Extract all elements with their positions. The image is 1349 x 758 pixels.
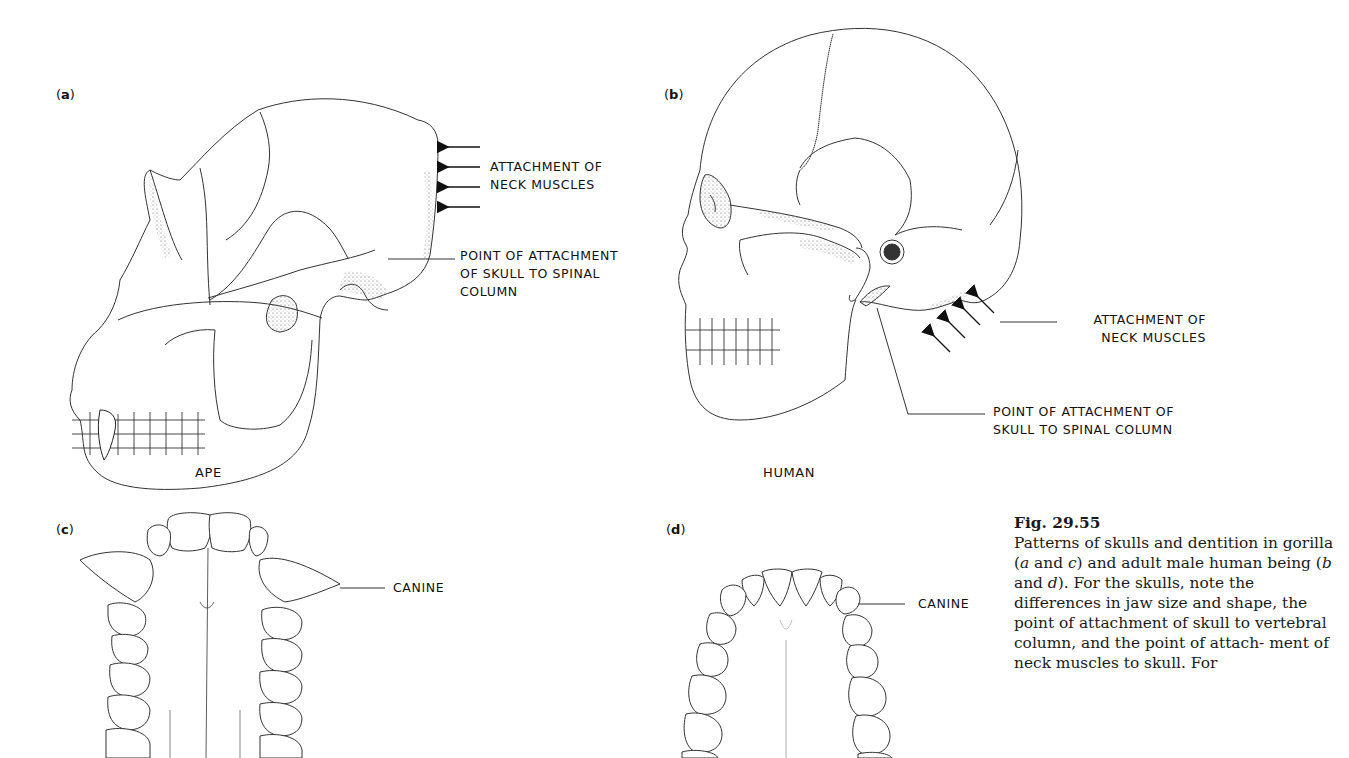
human-canine-label: CANINE xyxy=(918,595,969,613)
caption-text: ) and adult male human being ( xyxy=(1077,554,1322,572)
arrow-icon xyxy=(977,296,994,313)
caption-text: and xyxy=(1014,574,1048,592)
caption-ref-c: c xyxy=(1068,554,1077,572)
figure-number: Fig. 29.55 xyxy=(1014,513,1344,533)
ape-canine-label: CANINE xyxy=(393,579,444,597)
human-dentition-drawing xyxy=(682,569,892,758)
arrow-icon xyxy=(948,321,965,338)
arrow-icon xyxy=(963,308,980,325)
human-spinal-leader-line xyxy=(877,308,985,414)
human-species-label: HUMAN xyxy=(763,465,815,480)
human-skull-drawing xyxy=(679,28,1022,420)
ape-dentition-drawing xyxy=(80,513,340,758)
ape-neck-muscle-arrows xyxy=(447,147,480,207)
ape-skull-drawing xyxy=(70,99,438,490)
human-spinal-attachment-label: POINT OF ATTACHMENT OF SKULL TO SPINAL C… xyxy=(993,403,1174,439)
ape-spinal-attachment-label: POINT OF ATTACHMENT OF SKULL TO SPINAL C… xyxy=(460,247,618,301)
caption-ref-b: b xyxy=(1322,554,1332,572)
caption-ref-d: d xyxy=(1048,574,1058,592)
arrow-icon xyxy=(933,335,950,352)
human-neck-muscles-label: ATTACHMENT OF NECK MUSCLES xyxy=(1066,311,1206,347)
caption-ref-a: a xyxy=(1020,554,1029,572)
caption-text: ). For the skulls, note the differences … xyxy=(1014,574,1329,672)
ape-neck-muscles-label: ATTACHMENT OF NECK MUSCLES xyxy=(490,158,603,194)
ape-species-label: APE xyxy=(195,465,222,480)
figure-caption: Fig. 29.55 Patterns of skulls and dentit… xyxy=(1014,513,1344,673)
caption-text: and xyxy=(1029,554,1068,572)
